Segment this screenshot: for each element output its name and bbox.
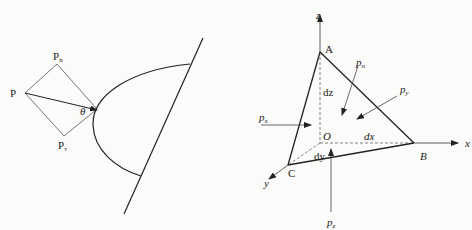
curved-surface bbox=[93, 64, 190, 176]
label-py: py bbox=[399, 83, 410, 97]
edge-ac bbox=[288, 52, 320, 165]
label-dz: dz bbox=[323, 86, 334, 98]
label-point-a: A bbox=[325, 43, 333, 55]
pn-arrow bbox=[342, 66, 358, 115]
label-origin-o: O bbox=[323, 130, 331, 142]
label-point-c: C bbox=[288, 167, 295, 179]
right-figure: z x y A B C O dz dx dy px pz pn py bbox=[258, 9, 470, 230]
diagram-canvas: P Pn Pτ θ z x y A B C O dz dx dy px pz bbox=[0, 0, 472, 230]
label-pz: pz bbox=[326, 216, 336, 230]
force-rect-edge bbox=[25, 64, 57, 93]
label-y-axis: y bbox=[263, 177, 269, 189]
left-figure: P Pn Pτ θ bbox=[10, 38, 203, 214]
force-arrow-p bbox=[25, 93, 97, 110]
label-p: P bbox=[10, 87, 16, 99]
py-arrow bbox=[357, 96, 397, 119]
label-pn: Pn bbox=[53, 50, 63, 64]
label-theta: θ bbox=[80, 105, 86, 117]
force-rect-edge bbox=[57, 64, 96, 108]
label-z-axis: z bbox=[315, 9, 321, 21]
label-pn: pn bbox=[355, 56, 366, 70]
label-point-b: B bbox=[420, 150, 427, 162]
plane-line bbox=[124, 38, 203, 214]
label-dx: dx bbox=[364, 130, 375, 142]
label-dy: dy bbox=[314, 150, 326, 162]
label-ptau: Pτ bbox=[58, 139, 67, 153]
y-axis bbox=[269, 165, 288, 179]
force-rect-edge bbox=[25, 93, 64, 136]
label-x-axis: x bbox=[464, 137, 470, 149]
label-px: px bbox=[258, 111, 269, 125]
edge-cb bbox=[288, 143, 414, 165]
